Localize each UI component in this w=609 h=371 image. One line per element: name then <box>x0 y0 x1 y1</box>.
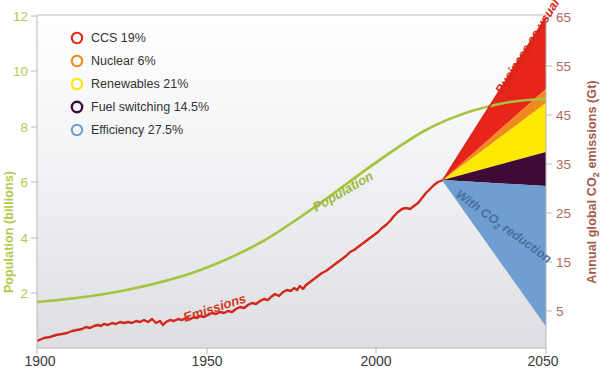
legend-label-ccs: CCS 19% <box>91 31 146 45</box>
left-tick-8: 8 <box>20 120 28 135</box>
left-tick-2: 2 <box>20 286 28 301</box>
right-axis-title-part1: Annual global CO <box>585 177 599 284</box>
left-axis-ticks: 12 10 8 6 4 2 <box>13 9 37 301</box>
right-tick-25: 25 <box>556 206 571 221</box>
right-tick-15: 15 <box>556 255 571 270</box>
svg-text:Annual global CO2 emissions (G: Annual global CO2 emissions (Gt) <box>585 80 601 283</box>
right-axis-ticks: 65 55 45 35 25 15 5 <box>546 10 571 319</box>
bottom-axis-ticks: 1900 1950 2000 2050 <box>24 348 558 369</box>
x-tick-1950: 1950 <box>191 353 222 369</box>
right-tick-5: 5 <box>556 304 564 319</box>
right-tick-65: 65 <box>556 10 571 25</box>
left-tick-6: 6 <box>20 175 28 190</box>
legend-label-renewables: Renewables 21% <box>91 77 188 91</box>
right-tick-55: 55 <box>556 59 571 74</box>
chart-figure: 12 10 8 6 4 2 65 55 45 35 25 15 5 1900 1… <box>0 0 609 371</box>
left-tick-10: 10 <box>13 64 28 79</box>
x-tick-2000: 2000 <box>360 353 391 369</box>
right-tick-35: 35 <box>556 157 571 172</box>
legend-item-fuel-switching[interactable]: Fuel switching 14.5% <box>72 100 209 114</box>
right-tick-45: 45 <box>556 108 571 123</box>
x-tick-2050: 2050 <box>527 353 558 369</box>
x-tick-1900: 1900 <box>24 353 55 369</box>
legend-label-fuel-switching: Fuel switching 14.5% <box>91 100 209 114</box>
left-tick-12: 12 <box>13 9 28 24</box>
right-axis-title-part2: emissions (Gt) <box>585 80 599 172</box>
legend-label-efficiency: Efficiency 27.5% <box>91 123 183 137</box>
legend-label-nuclear: Nuclear 6% <box>91 54 156 68</box>
left-tick-4: 4 <box>20 231 28 246</box>
left-axis-title: Population (billions) <box>2 171 16 293</box>
right-axis-title: Annual global CO2 emissions (Gt) <box>585 80 601 283</box>
